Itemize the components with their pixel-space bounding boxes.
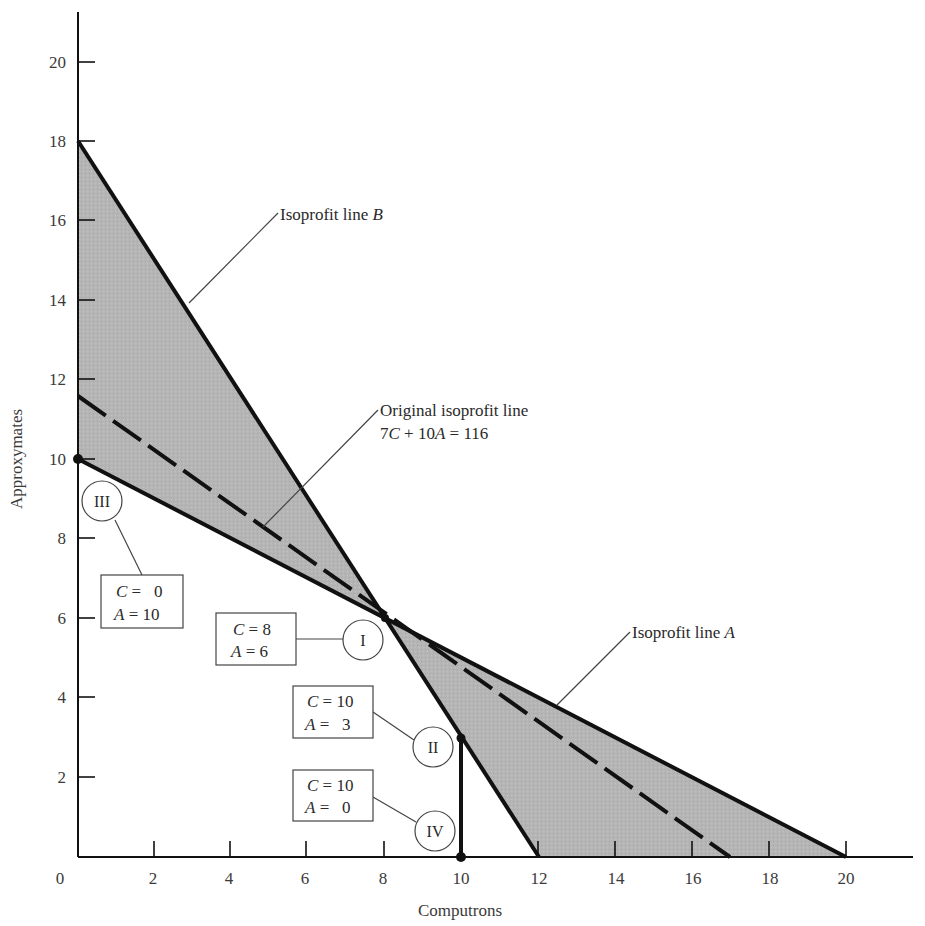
svg-text:16: 16: [49, 211, 66, 230]
isoprofit-line-b-label: Isoprofit line B: [280, 205, 384, 224]
svg-text:10: 10: [453, 869, 470, 888]
svg-text:C = 8: C = 8: [233, 620, 271, 639]
point-iii-box: C = 0 A = 10: [101, 575, 183, 628]
svg-text:10: 10: [49, 450, 66, 469]
point-iii-marker: III: [82, 481, 122, 521]
isoprofit-line-a-label: Isoprofit line A: [632, 623, 736, 642]
point-ii-box: C = 10 A = 3: [293, 686, 373, 738]
svg-text:2: 2: [58, 768, 67, 787]
svg-text:4: 4: [225, 869, 234, 888]
svg-text:20: 20: [838, 869, 855, 888]
point-i-marker: I: [343, 620, 383, 660]
original-isoprofit-equation: 7C + 10A = 116: [380, 424, 488, 443]
point-iv-box: C = 10 A = 0: [293, 770, 373, 821]
svg-text:12: 12: [531, 869, 548, 888]
svg-text:6: 6: [301, 869, 310, 888]
point-iv-marker: IV: [415, 811, 455, 851]
svg-text:14: 14: [608, 869, 626, 888]
svg-text:C = 0: C = 0: [116, 582, 162, 601]
svg-text:18: 18: [762, 869, 779, 888]
svg-text:20: 20: [49, 53, 66, 72]
svg-text:12: 12: [49, 370, 66, 389]
svg-text:A = 6: A = 6: [230, 642, 268, 661]
svg-text:I: I: [360, 632, 365, 649]
point-ii-marker: II: [413, 727, 453, 767]
svg-text:0: 0: [56, 869, 65, 888]
svg-text:2: 2: [149, 869, 158, 888]
point-ii-dot: [457, 734, 466, 743]
svg-text:III: III: [94, 493, 110, 510]
svg-text:16: 16: [685, 869, 702, 888]
point-i-box: C = 8 A = 6: [216, 613, 296, 665]
point-i-dot: [381, 614, 389, 622]
svg-text:IV: IV: [427, 823, 444, 840]
svg-text:A = 10: A = 10: [113, 605, 159, 624]
svg-text:6: 6: [58, 609, 67, 628]
isoprofit-line-b: [78, 141, 539, 857]
chart: 20 18 16 14 12 10 8 6 4 2 0 2 4 6 8 10 1…: [0, 0, 925, 926]
svg-text:4: 4: [58, 688, 67, 707]
svg-text:C = 10: C = 10: [307, 776, 353, 795]
svg-text:A = 0: A = 0: [304, 798, 350, 817]
svg-text:8: 8: [58, 529, 67, 548]
point-iii-dot: [73, 454, 83, 464]
svg-text:18: 18: [49, 132, 66, 151]
svg-text:A = 3: A = 3: [304, 715, 350, 734]
y-axis-title: Approxymates: [7, 409, 26, 509]
svg-text:C = 10: C = 10: [307, 692, 353, 711]
x-axis-title: Computrons: [418, 901, 502, 920]
svg-text:14: 14: [49, 291, 67, 310]
svg-text:8: 8: [379, 869, 388, 888]
x-tick-labels: 0 2 4 6 8 10 12 14 16 18 20: [56, 869, 855, 888]
original-isoprofit-label: Original isoprofit line: [380, 401, 528, 420]
point-iv-dot: [456, 852, 466, 862]
svg-text:II: II: [428, 739, 439, 756]
y-tick-labels: 20 18 16 14 12 10 8 6 4 2: [49, 53, 67, 787]
